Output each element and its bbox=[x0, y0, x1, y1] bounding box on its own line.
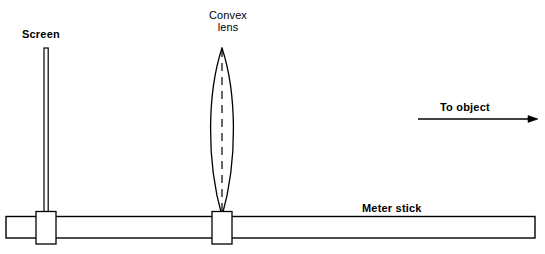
convex-lens-label-line2: lens bbox=[218, 21, 239, 33]
convex-lens-label-line1: Convex bbox=[209, 9, 247, 21]
lens-right-surface bbox=[222, 48, 233, 216]
convex-lens bbox=[211, 48, 234, 216]
to-object-arrow-head bbox=[528, 116, 538, 123]
convex-lens-label: Convexlens bbox=[192, 9, 264, 34]
screen-label: Screen bbox=[22, 28, 60, 40]
meter-stick-label: Meter stick bbox=[362, 202, 422, 214]
screen bbox=[44, 48, 48, 218]
screen-clamp bbox=[36, 212, 56, 245]
screen-post bbox=[44, 48, 48, 218]
lens-left-surface bbox=[211, 48, 222, 216]
lens-clamp bbox=[212, 212, 232, 245]
to-object-arrow bbox=[418, 116, 538, 123]
optics-diagram: Screen Convexlens To object Meter stick bbox=[0, 0, 545, 254]
meter-stick bbox=[6, 217, 535, 239]
to-object-label: To object bbox=[440, 101, 490, 113]
diagram-canvas bbox=[0, 0, 545, 254]
meter-stick-bar bbox=[6, 217, 535, 239]
